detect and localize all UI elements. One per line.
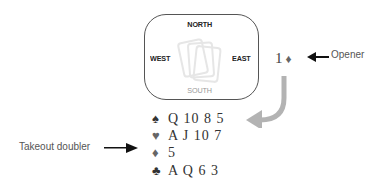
hearts-cards: A J 10 7: [168, 128, 222, 143]
spades-cards: Q 10 8 5: [168, 111, 225, 126]
hand-hearts-row: ♥A J 10 7: [152, 128, 222, 144]
diamond-suit-icon: ♦: [152, 145, 168, 161]
seat-south-label: SOUTH: [187, 86, 211, 95]
seat-east-label: EAST: [232, 54, 250, 63]
diamond-suit-icon: ♦: [286, 52, 292, 66]
club-suit-icon: ♣: [152, 163, 168, 179]
playing-cards-watermark-icon: [175, 35, 225, 90]
takeout-doubler-label: Takeout doubler: [19, 141, 90, 152]
clubs-cards: A Q 6 3: [168, 163, 219, 178]
seat-north-label: NORTH: [187, 20, 212, 29]
opening-bid: 1♦: [275, 50, 292, 67]
arrow-left-icon: [307, 51, 329, 63]
hand-clubs-row: ♣A Q 6 3: [152, 163, 219, 179]
arrow-right-icon: [104, 143, 138, 153]
opener-label: Opener: [331, 49, 364, 60]
hand-diamonds-row: ♦5: [152, 145, 176, 161]
diamonds-cards: 5: [168, 145, 176, 160]
curved-arrow-icon: [244, 76, 290, 128]
bid-level: 1: [275, 50, 283, 66]
seat-west-label: WEST: [150, 54, 170, 63]
spade-suit-icon: ♠: [152, 111, 168, 127]
heart-suit-icon: ♥: [152, 128, 168, 144]
hand-spades-row: ♠Q 10 8 5: [152, 111, 225, 127]
